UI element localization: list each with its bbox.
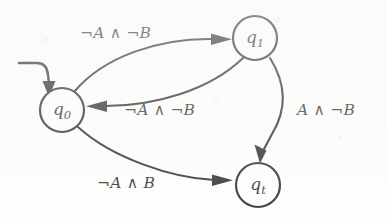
transition-q1-to-q0-path (105, 58, 243, 106)
state-label-qt: qt (238, 176, 278, 197)
transition-q1-to-q0-arrowhead (86, 101, 107, 113)
transition-q0-to-qt-arrowhead (212, 175, 233, 187)
state-label-q0-base: q (53, 99, 64, 119)
transition-q1-to-qt-path (264, 58, 283, 149)
transition-q0-to-q1-arrowhead (211, 34, 232, 46)
state-diagram-figure: q0 q1 qt ¬A ∧ ¬B ¬A ∧ ¬B A ∧ ¬B ¬A ∧ B (0, 0, 386, 222)
state-label-q0-sub: 0 (64, 108, 71, 122)
transition-label-q1-to-q0: ¬A ∧ ¬B (124, 103, 195, 119)
state-label-qt-base: q (250, 174, 261, 194)
transition-label-q0-to-q1: ¬A ∧ ¬B (80, 26, 151, 42)
state-label-q1: q1 (235, 29, 275, 50)
state-label-q0: q0 (42, 101, 82, 122)
transition-q0-to-q1-path (74, 39, 213, 92)
state-label-qt-sub: t (261, 183, 266, 197)
transition-q0-to-qt-path (78, 127, 214, 180)
transition-q1-to-qt (255, 58, 283, 164)
transition-label-q0-to-qt: ¬A ∧ B (97, 176, 155, 192)
start-arrow-path (19, 63, 49, 84)
state-label-q1-sub: 1 (257, 36, 264, 50)
transition-label-q1-to-qt: A ∧ ¬B (297, 103, 355, 119)
state-label-q1-base: q (246, 27, 257, 47)
